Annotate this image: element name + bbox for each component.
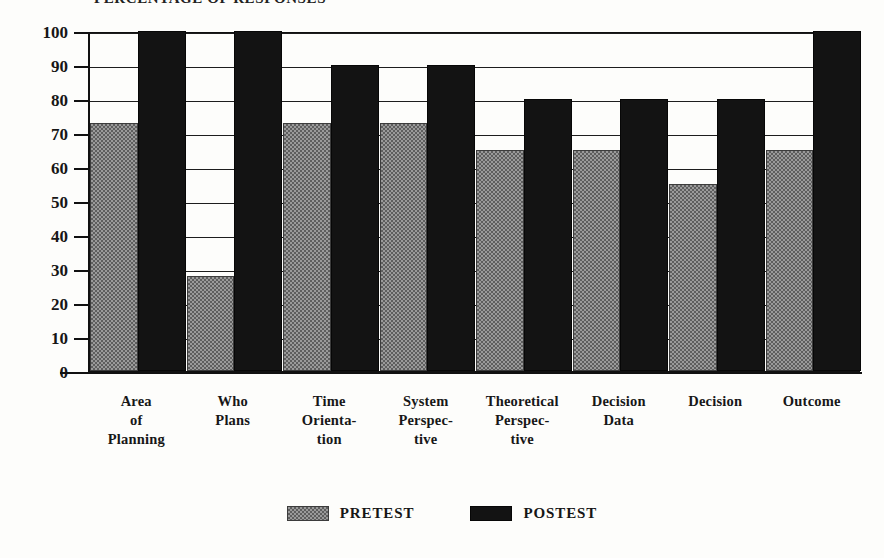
legend-swatch-postest [470,506,512,521]
y-axis-tick [74,236,88,238]
bar-postest-2 [331,65,379,371]
legend-label: POSTEST [523,505,597,522]
y-axis-tick-label: 60 [14,160,68,177]
bar-postest-6 [717,99,765,371]
y-axis-tick-label: 70 [14,126,68,143]
y-axis-tick [74,100,88,102]
bar-pretest-0 [90,123,138,371]
y-axis-tick [74,32,88,34]
bar-pretest-6 [669,184,717,371]
legend-entry-pretest: PRETEST [287,505,415,522]
plot-area [88,33,860,373]
bar-pretest-5 [573,150,621,371]
y-axis-tick [74,338,88,340]
bar-postest-3 [427,65,475,371]
bar-postest-4 [524,99,572,371]
y-axis-tick-label: 80 [14,92,68,109]
bar-pretest-4 [476,150,524,371]
y-axis-tick-label: 90 [14,58,68,75]
y-axis-tick-label: 20 [14,296,68,313]
y-axis-tick [74,168,88,170]
x-axis-label-line: Planning [74,430,199,449]
bar-postest-1 [234,31,282,371]
legend-swatch-pretest [287,506,329,521]
bar-pretest-7 [766,150,814,371]
y-axis-tick [74,134,88,136]
gridline [90,33,860,34]
y-axis-tick-label: 30 [14,262,68,279]
bar-pretest-3 [380,123,428,371]
x-axis-label-line: Data [557,411,682,430]
bar-pretest-1 [187,276,235,371]
x-axis-baseline [60,372,862,374]
chart-legend: PRETESTPOSTEST [0,505,884,522]
y-axis-tick-label: 10 [14,330,68,347]
bar-pretest-2 [283,123,331,371]
legend-label: PRETEST [340,505,415,522]
y-axis-tick-label: 100 [14,24,68,41]
y-axis-tick [74,202,88,204]
bar-postest-5 [620,99,668,371]
y-axis-tick [74,304,88,306]
bar-postest-7 [813,31,861,371]
bar-postest-0 [138,31,186,371]
y-axis-tick-label: 50 [14,194,68,211]
y-axis-tick-label: 40 [14,228,68,245]
y-axis-tick [74,66,88,68]
y-axis-tick [74,270,88,272]
chart-title: PERCENTAGE OF RESPONSES [0,0,420,7]
x-axis-label-7: Outcome [750,392,875,411]
x-axis-label-line: tive [460,430,585,449]
legend-entry-postest: POSTEST [470,505,597,522]
x-axis-label-line: Outcome [750,392,875,411]
